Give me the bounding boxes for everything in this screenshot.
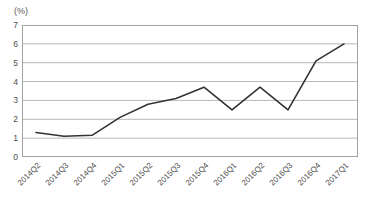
- plot-svg: [22, 25, 358, 157]
- y-tick-label-text: 1: [13, 133, 18, 143]
- y-tick-label-text: 3: [13, 95, 18, 105]
- x-tick-label: 2015Q4: [119, 161, 210, 202]
- y-tick-label: 1: [0, 133, 18, 143]
- plot-area: [22, 25, 358, 157]
- y-tick-label-text: 0: [13, 152, 18, 162]
- y-axis-unit-label: (%): [14, 6, 28, 16]
- y-tick-label: 5: [0, 58, 18, 68]
- x-tick-label: 2015Q1: [35, 161, 126, 202]
- y-tick-label: 7: [0, 20, 18, 30]
- x-tick-label: 2014Q4: [7, 161, 98, 202]
- x-axis-tick-labels: 2014Q22014Q32014Q42015Q12015Q22015Q32015…: [0, 157, 376, 202]
- x-tick-label: 2016Q2: [175, 161, 266, 202]
- x-tick-label: 2014Q2: [0, 161, 42, 202]
- x-tick-label: 2014Q3: [0, 161, 70, 202]
- y-tick-label-text: 6: [13, 39, 18, 49]
- x-tick-label: 2015Q3: [91, 161, 182, 202]
- y-tick-label: 3: [0, 95, 18, 105]
- gridlines-group: [22, 44, 358, 138]
- data-series-group: [36, 44, 344, 136]
- x-tick-label: 2016Q4: [231, 161, 322, 202]
- line-chart: (%) 01234567 2014Q22014Q32014Q42015Q1201…: [0, 0, 376, 202]
- x-tick-label: 2016Q3: [203, 161, 294, 202]
- y-tick-label-text: 4: [13, 77, 18, 87]
- y-tick-label: 4: [0, 77, 18, 87]
- y-tick-label: 2: [0, 114, 18, 124]
- y-tick-label: 6: [0, 39, 18, 49]
- plot-frame: [22, 25, 358, 157]
- x-tick-label: 2017Q1: [259, 161, 350, 202]
- y-tick-label-text: 2: [13, 114, 18, 124]
- x-tick-label: 2015Q2: [63, 161, 154, 202]
- x-tick-label: 2016Q1: [147, 161, 238, 202]
- y-tick-label-text: 7: [13, 20, 18, 30]
- y-tick-label-text: 5: [13, 58, 18, 68]
- y-tick-label: 0: [0, 152, 18, 162]
- data-series-line: [36, 44, 344, 136]
